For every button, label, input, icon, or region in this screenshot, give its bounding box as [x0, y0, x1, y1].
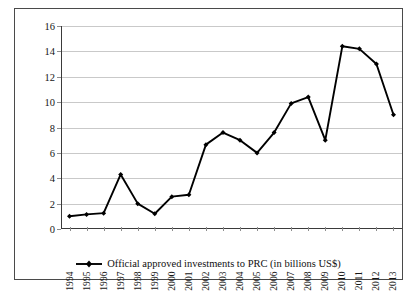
x-axis-tick-label: 2002 [201, 271, 211, 290]
y-axis-tick-label: 2 [50, 198, 55, 209]
y-axis-tick-label: 4 [50, 173, 55, 184]
x-axis-tick-mark [257, 227, 258, 231]
x-axis-tick-mark [138, 227, 139, 231]
legend-label: Official approved investments to PRC (in… [107, 258, 340, 269]
series-data-point [306, 95, 311, 100]
series-data-point [84, 212, 89, 217]
x-axis-tick-mark [172, 227, 173, 231]
x-axis-tick-label: 2003 [218, 271, 228, 290]
x-axis-tick-label: 2011 [354, 271, 364, 290]
y-axis-tick-label: 6 [50, 147, 55, 158]
series-data-point [323, 138, 328, 143]
x-axis-tick-mark [206, 227, 207, 231]
series-data-point [186, 192, 191, 197]
x-axis-tick-mark [291, 227, 292, 231]
x-axis-tick-label: 2013 [388, 271, 398, 290]
y-axis-tick-label: 0 [50, 224, 55, 235]
x-axis-tick-label: 1995 [82, 271, 92, 290]
x-axis-tick-mark [189, 227, 190, 231]
x-axis-tick-mark [223, 227, 224, 231]
x-axis-tick-label: 2005 [252, 271, 262, 290]
plot-area: 0246810121416 [61, 26, 402, 229]
chart-frame: 0246810121416 19941995199619971998199920… [14, 8, 403, 280]
x-axis-tick-label: 1996 [99, 271, 109, 290]
x-axis-tick-label: 2000 [167, 271, 177, 290]
x-axis-tick-label: 2001 [184, 271, 194, 290]
x-axis-tick-mark [104, 227, 105, 231]
y-axis-tick-mark [57, 229, 61, 230]
chart-figure: 0246810121416 19941995199619971998199920… [0, 0, 417, 296]
x-axis-tick-label: 2008 [303, 271, 313, 290]
x-axis-tick-label: 1994 [65, 271, 75, 290]
x-axis-tick-mark [121, 227, 122, 231]
y-axis-tick-label: 10 [45, 97, 56, 108]
x-axis-tick-label: 2012 [371, 271, 381, 290]
legend-key-icon [76, 259, 102, 269]
chart-legend: Official approved investments to PRC (in… [15, 258, 402, 269]
y-axis-tick-label: 14 [45, 46, 56, 57]
x-axis-tick-label: 1999 [150, 271, 160, 290]
x-axis-tick-mark [359, 227, 360, 231]
series-line [70, 46, 394, 216]
x-axis-tick-label: 2009 [320, 271, 330, 290]
x-axis-tick-mark [87, 227, 88, 231]
y-axis-tick-label: 8 [50, 122, 55, 133]
x-axis-tick-mark [274, 227, 275, 231]
x-axis-tick-mark [308, 227, 309, 231]
x-axis-tick-mark [376, 227, 377, 231]
series-data-point [67, 214, 72, 219]
x-axis-tick-label: 2004 [235, 271, 245, 290]
x-axis-tick-label: 1997 [116, 271, 126, 290]
x-axis-tick-mark [155, 227, 156, 231]
x-axis-tick-label: 2007 [286, 271, 296, 290]
x-axis-tick-mark [240, 227, 241, 231]
series-data-point [340, 44, 345, 49]
x-axis-tick-label: 1998 [133, 271, 143, 290]
y-axis-tick-label: 16 [45, 21, 56, 32]
x-axis-tick-label: 2006 [269, 271, 279, 290]
x-axis-tick-mark [342, 227, 343, 231]
series-plot [61, 26, 402, 229]
x-axis-tick-mark [70, 227, 71, 231]
y-axis-tick-label: 12 [45, 71, 56, 82]
x-axis-tick-label: 2010 [337, 271, 347, 290]
x-axis-tick-mark [393, 227, 394, 231]
x-axis-tick-mark [325, 227, 326, 231]
series-data-point [391, 112, 396, 117]
